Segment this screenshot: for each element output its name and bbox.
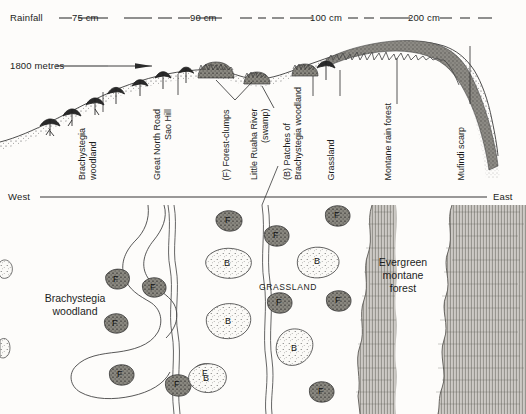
label-line-2: Brachystegia woodland xyxy=(293,87,304,180)
map-edge-patch-2 xyxy=(0,338,10,358)
label-line-1: Grassland xyxy=(326,139,337,180)
profile-label-grassland: Grassland xyxy=(326,139,337,180)
west-label: West xyxy=(8,191,30,202)
profile-label-little-ruaha-river: Little Ruaha River (swamp) xyxy=(249,108,270,180)
label-line-1: Great North Road xyxy=(152,109,163,180)
label-line-1: Mufindi scarp xyxy=(456,126,467,180)
rainfall-station-75: 75 cm xyxy=(72,12,99,23)
label-line-1: (F) Forest-clumps xyxy=(221,109,232,180)
label-line-1: Evergreen xyxy=(368,256,438,269)
map-label-evergreen-montane-forest: Evergreen montane forest xyxy=(368,256,438,295)
label-line-2: woodland xyxy=(88,128,99,180)
rainfall-axis-label: Rainfall xyxy=(10,12,43,23)
altitude-marker xyxy=(56,63,152,69)
label-line-1: Brachystegia xyxy=(20,292,130,305)
map-label-grassland: GRASSLAND xyxy=(253,281,323,294)
profile-label-mufindi-scarp: Mufindi scarp xyxy=(456,126,467,180)
east-label: East xyxy=(493,191,513,202)
diagram-canvas xyxy=(0,0,526,414)
profile-label-patches-brachystegia: (B) Patches of Brachystegia woodland xyxy=(282,87,303,180)
map-edge-patch xyxy=(0,260,12,278)
altitude-label: 1800 metres xyxy=(10,60,64,71)
label-line-2: (swamp) xyxy=(260,108,271,180)
label-line-1: Brachystegia xyxy=(77,128,88,180)
rainfall-station-100: 100 cm xyxy=(310,12,342,23)
label-line-1: Little Ruaha River xyxy=(249,108,260,180)
rainfall-station-90: 90 cm xyxy=(190,12,217,23)
label-line-1: Montane rain forest xyxy=(383,102,394,180)
profile-label-great-north-road: Great North Road Sao Hill xyxy=(152,109,173,180)
figure-root: Rainfall 75 cm 90 cm 100 cm 200 cm 1800 … xyxy=(0,0,526,414)
label-line-1: (B) Patches of xyxy=(282,87,293,180)
label-line-2: Sao Hill xyxy=(163,109,174,180)
label-line-2: woodland xyxy=(20,305,130,318)
evergreen-montane-forest-area xyxy=(356,205,526,414)
label-line-2: montane xyxy=(368,269,438,282)
label-line-3: forest xyxy=(368,282,438,295)
rainfall-station-200: 200 cm xyxy=(408,12,440,23)
map-brachystegia-patches xyxy=(189,247,339,392)
map-label-brachystegia-woodland: Brachystegia woodland xyxy=(20,292,130,318)
profile-label-montane-rain-forest: Montane rain forest xyxy=(383,102,394,180)
profile-label-forest-clumps: (F) Forest-clumps xyxy=(221,109,232,180)
profile-label-brachystegia-woodland: Brachystegia woodland xyxy=(77,128,98,180)
